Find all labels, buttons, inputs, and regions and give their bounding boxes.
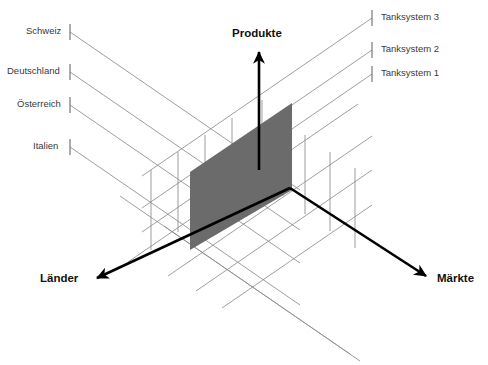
diagram-canvas: Schweiz Deutschland Österreich Italien T…	[0, 0, 488, 365]
axis-label-laender: Länder	[40, 272, 78, 284]
tick-label-laender-schweiz: Schweiz	[26, 25, 61, 36]
tick-label-laender-deutschland: Deutschland	[7, 65, 60, 76]
tick-label-laender-oesterreich: Österreich	[17, 98, 61, 109]
axis-maerkte-line	[290, 188, 426, 276]
tick-label-maerkte-tanksystem-1: Tanksystem 1	[381, 67, 439, 78]
axis-label-produkte: Produkte	[232, 27, 282, 39]
tick-label-laender-italien: Italien	[33, 140, 58, 151]
axis-label-maerkte: Märkte	[437, 272, 474, 284]
tick-label-maerkte-tanksystem-3: Tanksystem 3	[381, 11, 439, 22]
isometric-cube-svg	[0, 0, 488, 365]
tick-label-maerkte-tanksystem-2: Tanksystem 2	[381, 43, 439, 54]
